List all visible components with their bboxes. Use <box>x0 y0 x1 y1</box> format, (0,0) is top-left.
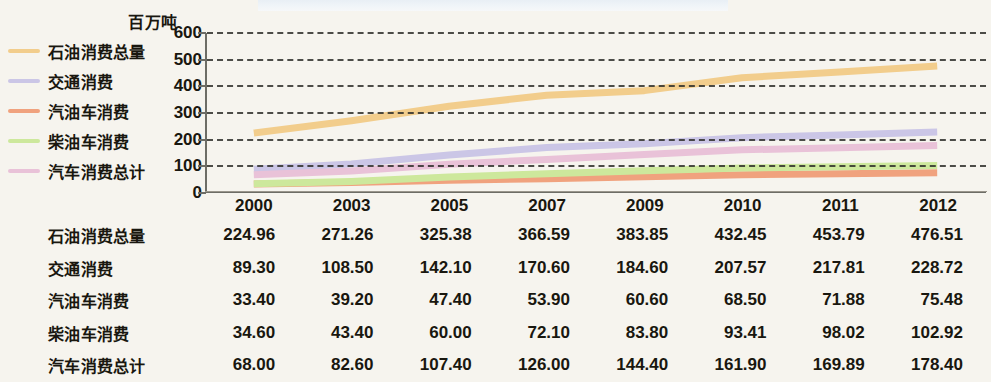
table-row-values: 68.0082.60107.40126.00144.40161.90169.89… <box>205 355 991 375</box>
table-row-label: 石油消费总量 <box>0 223 205 247</box>
legend-item-label: 汽车消费总计 <box>48 159 146 183</box>
table-cell: 43.40 <box>303 323 401 343</box>
y-tick-mark <box>198 112 206 114</box>
year-column-header: 2010 <box>694 192 792 219</box>
gridline <box>207 139 986 141</box>
year-column-header: 2009 <box>596 192 694 219</box>
table-cell: 161.90 <box>696 355 794 375</box>
year-column-header: 2011 <box>792 192 890 219</box>
table-row-values: 89.30108.50142.10170.60184.60207.57217.8… <box>205 258 991 278</box>
table-row-values: 224.96271.26325.38366.59383.85432.45453.… <box>205 225 991 245</box>
table-cell: 68.50 <box>696 290 794 310</box>
table-row-values: 34.6043.4060.0072.1083.8093.4198.02102.9… <box>205 323 991 343</box>
line-chart: 0100200300400500600 <box>160 33 986 193</box>
legend-color-swatch <box>8 109 40 113</box>
table-cell: 108.50 <box>303 258 401 278</box>
year-column-header: 2003 <box>303 192 401 219</box>
table-cell: 71.88 <box>795 290 893 310</box>
table-row-label: 汽车消费总计 <box>0 353 205 377</box>
table-cell: 98.02 <box>795 323 893 343</box>
table-row: 交通消费89.30108.50142.10170.60184.60207.572… <box>0 252 991 285</box>
table-cell: 142.10 <box>402 258 500 278</box>
table-cell: 184.60 <box>598 258 696 278</box>
legend-color-swatch <box>8 139 40 143</box>
table-cell: 107.40 <box>402 355 500 375</box>
table-cell: 169.89 <box>795 355 893 375</box>
table-row: 柴油车消费34.6043.4060.0072.1083.8093.4198.02… <box>0 317 991 350</box>
table-cell: 476.51 <box>893 225 991 245</box>
legend-color-swatch <box>8 169 40 173</box>
y-tick-mark <box>198 85 206 87</box>
table-cell: 224.96 <box>205 225 303 245</box>
year-column-header: 2012 <box>889 192 987 219</box>
table-row-values: 33.4039.2047.4053.9060.6068.5071.8875.48 <box>205 290 991 310</box>
table-row-label: 交通消费 <box>0 256 205 280</box>
legend-item-label: 柴油车消费 <box>48 129 130 153</box>
table-row: 汽油车消费33.4039.2047.4053.9060.6068.5071.88… <box>0 284 991 317</box>
table-cell: 34.60 <box>205 323 303 343</box>
table-row: 汽车消费总计68.0082.60107.40126.00144.40161.90… <box>0 349 991 382</box>
x-axis-year-headers: 20002003200520072009201020112012 <box>205 192 987 219</box>
table-row: 石油消费总量224.96271.26325.38366.59383.85432.… <box>0 219 991 252</box>
legend-color-swatch <box>8 79 40 83</box>
table-cell: 53.90 <box>500 290 598 310</box>
gridline <box>207 112 986 114</box>
plot-area <box>205 33 986 193</box>
y-axis: 0100200300400500600 <box>160 33 202 193</box>
y-tick-mark <box>198 32 206 34</box>
series-line <box>254 66 937 133</box>
year-column-header: 2005 <box>401 192 499 219</box>
table-cell: 228.72 <box>893 258 991 278</box>
y-tick-mark <box>198 165 206 167</box>
table-cell: 144.40 <box>598 355 696 375</box>
table-cell: 89.30 <box>205 258 303 278</box>
table-cell: 126.00 <box>500 355 598 375</box>
table-cell: 366.59 <box>500 225 598 245</box>
table-cell: 82.60 <box>303 355 401 375</box>
legend-item-label: 石油消费总量 <box>48 39 146 63</box>
data-table: 石油消费总量224.96271.26325.38366.59383.85432.… <box>0 219 991 382</box>
table-cell: 432.45 <box>696 225 794 245</box>
gridline <box>207 32 986 34</box>
year-column-header: 2000 <box>205 192 303 219</box>
legend-item-label: 汽油车消费 <box>48 99 130 123</box>
legend-item-label: 交通消费 <box>48 69 113 93</box>
table-cell: 72.10 <box>500 323 598 343</box>
table-cell: 60.00 <box>402 323 500 343</box>
table-cell: 383.85 <box>598 225 696 245</box>
table-cell: 217.81 <box>795 258 893 278</box>
table-cell: 102.92 <box>893 323 991 343</box>
y-axis-unit-label: 百万吨 <box>128 9 178 33</box>
table-row-label: 柴油车消费 <box>0 321 205 345</box>
table-cell: 170.60 <box>500 258 598 278</box>
table-cell: 60.60 <box>598 290 696 310</box>
gridline <box>207 165 986 167</box>
table-cell: 39.20 <box>303 290 401 310</box>
table-cell: 325.38 <box>402 225 500 245</box>
table-cell: 93.41 <box>696 323 794 343</box>
table-cell: 453.79 <box>795 225 893 245</box>
table-cell: 178.40 <box>893 355 991 375</box>
y-tick-mark <box>198 139 206 141</box>
table-cell: 47.40 <box>402 290 500 310</box>
gridline <box>207 59 986 61</box>
table-cell: 271.26 <box>303 225 401 245</box>
table-row-label: 汽油车消费 <box>0 288 205 312</box>
table-cell: 75.48 <box>893 290 991 310</box>
table-cell: 68.00 <box>205 355 303 375</box>
y-tick-mark <box>198 59 206 61</box>
year-column-header: 2007 <box>498 192 596 219</box>
table-cell: 33.40 <box>205 290 303 310</box>
chart-page: 百万吨 石油消费总量交通消费汽油车消费柴油车消费汽车消费总计 010020030… <box>0 0 991 382</box>
gridline <box>207 85 986 87</box>
legend-color-swatch <box>8 49 40 53</box>
header-strip <box>258 0 728 11</box>
table-cell: 207.57 <box>696 258 794 278</box>
table-cell: 83.80 <box>598 323 696 343</box>
